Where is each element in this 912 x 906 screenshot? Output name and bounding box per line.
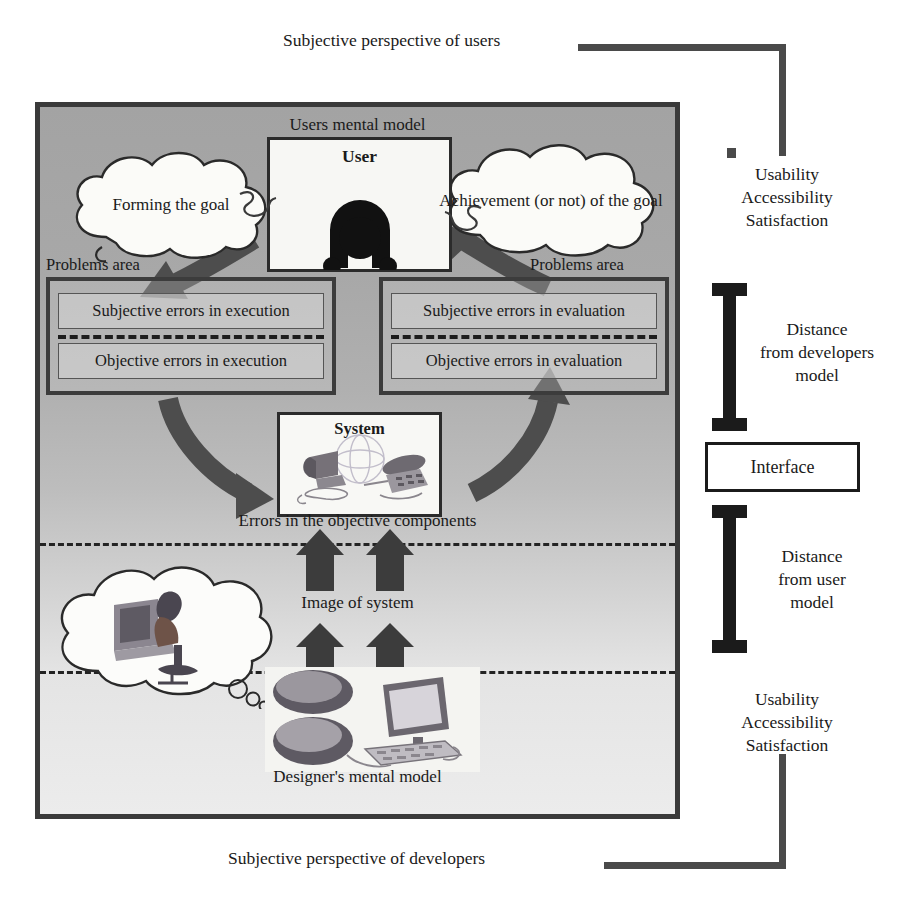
qualities-bottom-label: Usability Accessibility Satisfaction xyxy=(712,688,862,757)
user-person-icon xyxy=(300,174,420,270)
up-arrow-right-top xyxy=(366,529,414,591)
qualities-top-label: Usability Accessibility Satisfaction xyxy=(712,163,862,232)
arrow-system-to-evaluation-path xyxy=(472,401,548,493)
distance-from-user-model-label: Distance from user model xyxy=(742,545,882,614)
top-connector-horizontal xyxy=(578,44,786,51)
cloud-forming-the-goal: Forming the goal xyxy=(62,141,280,269)
top-connector-vertical xyxy=(779,44,786,156)
user-box-label: User xyxy=(270,146,449,167)
subjective-errors-execution: Subjective errors in execution xyxy=(58,293,324,329)
errors-execution-group: Subjective errors in execution Objective… xyxy=(46,277,336,395)
distance-user-bracket xyxy=(723,505,736,653)
cloud-achievement-of-goal: Achievement (or not) of the goal xyxy=(432,135,670,267)
cloud-achievement-of-goal-text: Achievement (or not) of the goal xyxy=(432,135,670,273)
bottom-connector-vertical xyxy=(779,754,786,869)
interface-box: Interface xyxy=(705,442,860,492)
objective-errors-execution: Objective errors in execution xyxy=(58,343,324,379)
execution-subjective-objective-divider xyxy=(58,335,324,339)
diagram-canvas: Subjective perspective of users Subjecti… xyxy=(0,0,912,906)
cloud-designer-thought xyxy=(46,559,274,709)
image-of-system-up-arrows-top xyxy=(290,529,430,591)
system-box: System xyxy=(277,412,442,517)
system-box-label: System xyxy=(280,419,439,439)
top-perspective-label: Subjective perspective of users xyxy=(283,30,500,51)
cloud-forming-the-goal-text: Forming the goal xyxy=(62,141,280,277)
distance-developers-bracket xyxy=(723,283,736,431)
user-box: User xyxy=(267,137,452,272)
designer-devices-illustration xyxy=(265,667,480,772)
errors-objective-components-label: Errors in the objective components xyxy=(40,511,675,531)
bottom-connector-horizontal xyxy=(604,862,786,869)
distance-from-developers-model-label: Distance from developers model xyxy=(742,318,892,387)
models-panel: Users mental model xyxy=(35,102,680,819)
objective-errors-evaluation: Objective errors in evaluation xyxy=(391,343,657,379)
up-arrow-left-top xyxy=(296,529,344,591)
top-connector-stub xyxy=(727,148,736,158)
errors-evaluation-group: Subjective errors in evaluation Objectiv… xyxy=(379,277,669,395)
bottom-perspective-label: Subjective perspective of developers xyxy=(228,848,485,869)
designers-mental-model-label: Designer's mental model xyxy=(40,767,675,787)
evaluation-subjective-objective-divider xyxy=(391,335,657,339)
subjective-errors-evaluation: Subjective errors in evaluation xyxy=(391,293,657,329)
